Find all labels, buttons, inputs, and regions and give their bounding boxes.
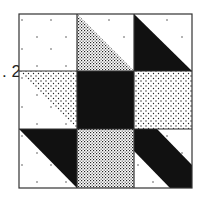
cell-r1-c1 bbox=[77, 71, 134, 129]
cell-r0-c1 bbox=[77, 14, 134, 71]
quilt-block bbox=[0, 0, 204, 204]
cell-r0-c2 bbox=[134, 14, 192, 71]
cell-r2-c0 bbox=[19, 129, 77, 188]
cell-r2-c2 bbox=[134, 129, 192, 188]
cell-r1-c2 bbox=[134, 71, 192, 129]
cell-r2-c1 bbox=[77, 129, 134, 188]
cell-r1-c0 bbox=[19, 71, 77, 129]
cell-r0-c0 bbox=[19, 14, 77, 71]
